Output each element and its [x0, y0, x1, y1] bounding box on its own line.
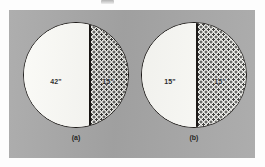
circle-b-right-dotted-region: [197, 23, 246, 127]
circle-a-right-dotted-region: [90, 23, 128, 127]
circle-b-wrapper: 15" 15": [141, 22, 247, 128]
diagram-b: 15" 15" (b): [133, 22, 255, 146]
circle-a-right-dimension-label: 15": [102, 78, 114, 85]
figure-panel: 42" 15" (a) 15" 15" (b): [9, 10, 255, 158]
diagram-b-caption: (b): [133, 134, 255, 141]
circle-a-left-dimension-label: 42": [50, 78, 62, 85]
scanned-page-background: 42" 15" (a) 15" 15" (b): [0, 0, 265, 167]
circle-a-outline: [23, 22, 129, 128]
circle-a-wrapper: 42" 15": [23, 22, 129, 128]
circle-a-left-clear-region: [24, 23, 90, 127]
circle-b-outline: [141, 22, 247, 128]
diagram-a-caption: (a): [15, 134, 137, 141]
circle-b-left-dimension-label: 15": [164, 78, 176, 85]
diagram-a: 42" 15" (a): [15, 22, 137, 146]
page-scan-artifact: [101, 0, 114, 4]
circle-b-left-clear-region: [142, 23, 197, 127]
circle-b-divider-line: [196, 22, 198, 128]
circle-b-right-dimension-label: 15": [214, 78, 226, 85]
circle-a-divider-line: [89, 22, 91, 128]
